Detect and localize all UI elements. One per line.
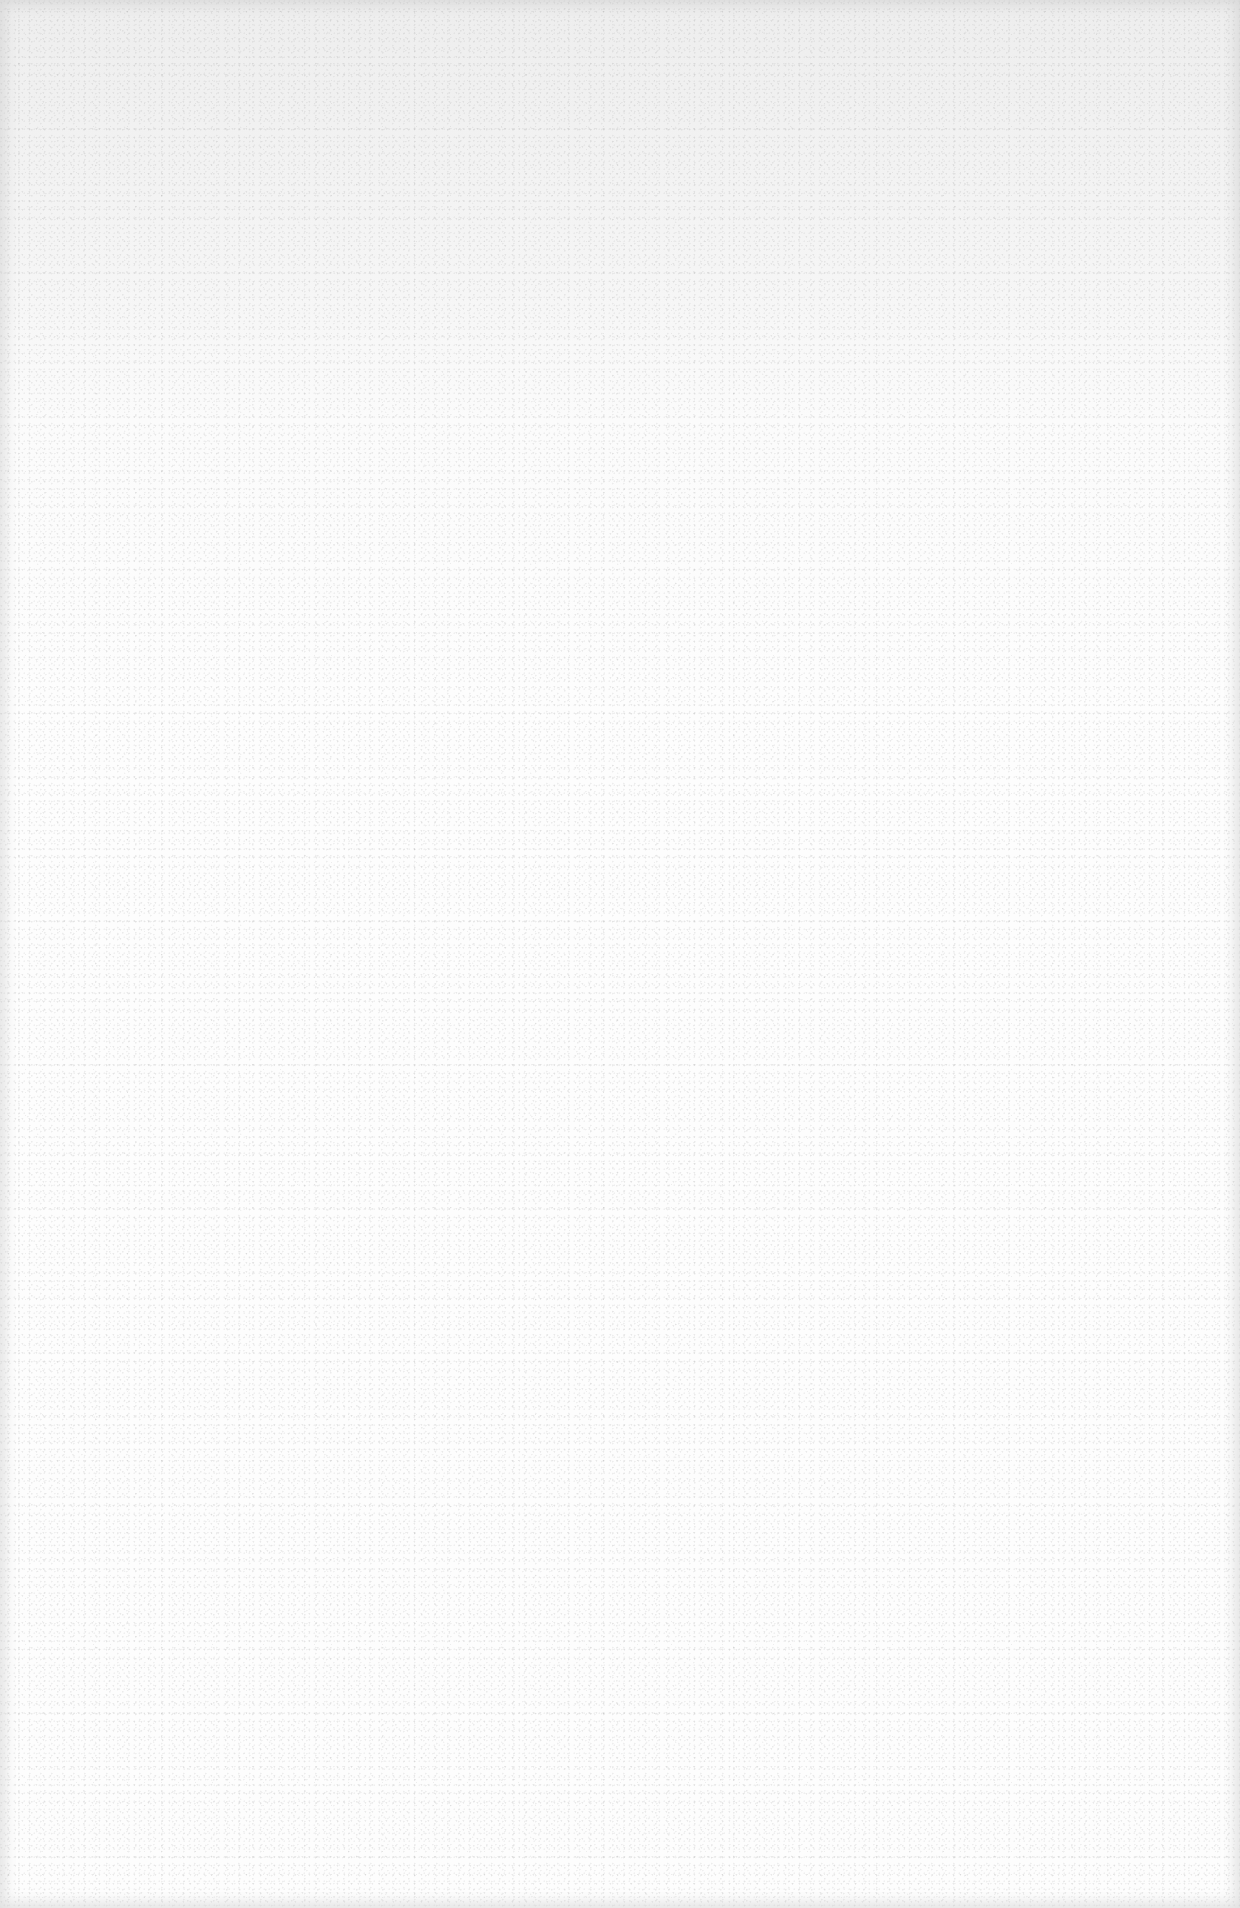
paper-grain-coarse	[0, 0, 1240, 1908]
paper-tint-band	[0, 0, 1240, 700]
page-edge-shadow	[0, 0, 1240, 1908]
blank-paper-page	[0, 0, 1240, 1908]
paper-grain	[0, 0, 1240, 1908]
